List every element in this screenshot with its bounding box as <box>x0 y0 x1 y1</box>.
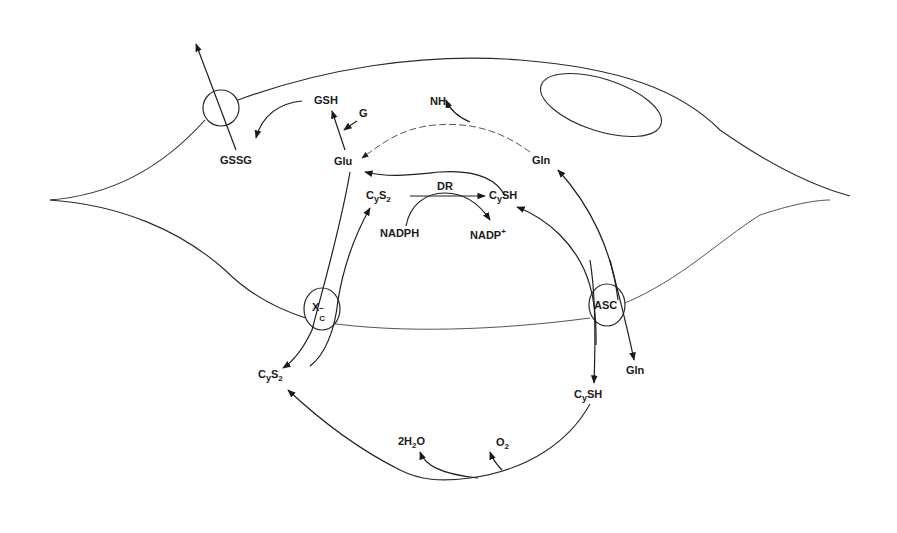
organelle-icon <box>533 61 669 149</box>
g-label: G <box>359 108 368 119</box>
cysh-to-cys2-arrow <box>288 390 400 470</box>
gsh-to-gssg-arrow <box>256 101 302 138</box>
cys2-uptake-arrow <box>310 208 370 366</box>
gsh-label: GSH <box>314 95 338 106</box>
cys2-inside-label: CyS2 <box>366 190 391 204</box>
gssg-label: GSSG <box>220 155 252 166</box>
gln-outside-label: Gln <box>626 365 644 376</box>
cysh-inside-label: CySH <box>489 190 517 201</box>
xc-transporter-label: X−C <box>312 302 326 313</box>
cysh-outside-label: CySH <box>574 389 602 400</box>
cysh-out-arrow <box>590 260 595 383</box>
o2-label: O2 <box>496 437 509 451</box>
gln-inside-label: Gln <box>532 155 550 166</box>
nadp-label: NADP+ <box>470 228 506 241</box>
o2-input-arrow <box>490 452 502 470</box>
g-input-arrow <box>344 121 357 130</box>
oxidation-arc <box>400 404 590 480</box>
h2o-label: 2H2O <box>398 436 425 450</box>
nadph-to-nadp-arrow <box>406 193 490 226</box>
gln-to-glu-arrow <box>362 124 530 158</box>
gssg-efflux-transporter <box>203 90 239 126</box>
h2o-output-arrow <box>420 452 478 478</box>
glu-efflux-arrow <box>283 172 350 368</box>
nadph-label: NADPH <box>380 228 419 239</box>
dr-label: DR <box>437 181 453 192</box>
glu-label: Glu <box>334 156 352 167</box>
glu-to-gsh-arrow <box>332 111 345 150</box>
asc-transporter-label: ASC <box>594 300 617 311</box>
nh3-label: NH3 <box>430 96 450 110</box>
cys2-outside-label: CyS2 <box>258 369 283 383</box>
pathway-diagram <box>0 0 897 533</box>
